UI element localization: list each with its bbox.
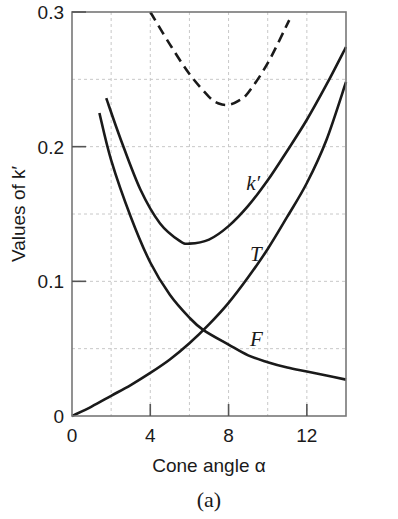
x-axis-label: Cone angle α <box>152 455 265 476</box>
x-tick-label: 12 <box>296 425 317 446</box>
y-tick-label: 0 <box>53 406 64 427</box>
curve-label-T: T <box>250 242 263 266</box>
figure-caption: (a) <box>197 487 221 512</box>
x-tick-label: 8 <box>223 425 234 446</box>
plot-frame <box>72 12 346 416</box>
curve-k-prime <box>106 47 346 244</box>
curve-label-F: F <box>249 327 263 351</box>
data-curves <box>72 12 346 416</box>
y-tick-label: 0.2 <box>38 137 64 158</box>
y-tick-label: 0.3 <box>38 2 64 23</box>
y-tick-label: 0.1 <box>38 271 64 292</box>
grid-lines <box>72 12 346 416</box>
axis-ticks: 0481200.10.20.3 <box>38 2 318 446</box>
curve-T <box>72 82 346 416</box>
curve-F <box>99 113 346 380</box>
chart: 0481200.10.20.3 k′TF Cone angle α Values… <box>0 0 398 519</box>
y-axis-label: Values of k′ <box>8 165 29 262</box>
curve-label-k-prime: k′ <box>246 171 260 195</box>
curve-dashed-bound <box>150 12 289 105</box>
x-tick-label: 4 <box>145 425 156 446</box>
x-tick-label: 0 <box>67 425 78 446</box>
